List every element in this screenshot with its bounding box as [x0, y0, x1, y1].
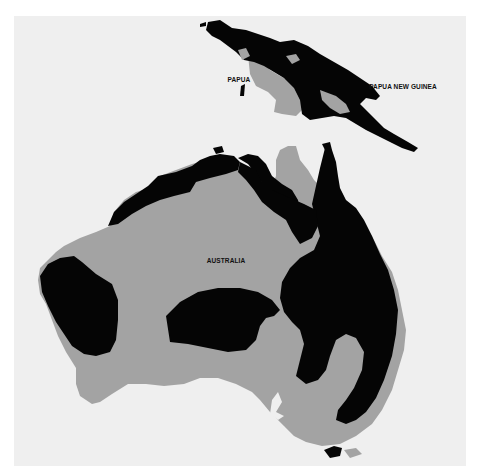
label-australia: AUSTRALIA: [207, 257, 245, 264]
label-papua: PAPUA: [228, 76, 251, 83]
map-canvas: [0, 0, 478, 475]
label-papua-new-guinea: PAPUA NEW GUINEA: [369, 83, 437, 90]
